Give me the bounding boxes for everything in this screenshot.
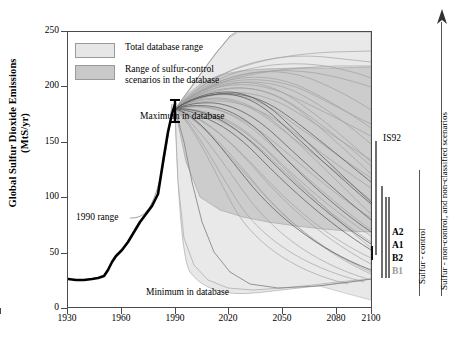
x-tick-1960 xyxy=(0,308,1,314)
range-1990-leader xyxy=(130,104,172,218)
x-tick-label-2100: 2100 xyxy=(349,313,393,323)
y-axis-title-line1: Global Sulfur Dioxide Emissions xyxy=(7,58,19,207)
annotation-1990-range: 1990 range xyxy=(76,212,118,222)
y-tick-label-0: 0 xyxy=(19,303,59,313)
y-tick-label-150: 150 xyxy=(19,137,59,147)
y-axis-title: Global Sulfur Dioxide Emissions (MtS/yr) xyxy=(2,28,36,238)
historical-emissions-line xyxy=(68,104,175,280)
legend-label-control-range-line1: Range of sulfur-control xyxy=(125,64,219,75)
marker-bar-a2 xyxy=(381,186,383,278)
x-tick-label-1990: 1990 xyxy=(153,313,197,323)
y-axis-title-line2: (MtS/yr) xyxy=(19,113,31,153)
marker-label-is92: IS92 xyxy=(383,133,401,143)
legend-label-control-range: Range of sulfur-control scenarios in the… xyxy=(125,64,219,85)
x-tick-label-2020: 2020 xyxy=(206,313,250,323)
y-tick-label-100: 100 xyxy=(19,192,59,202)
bracket-arrow-icon xyxy=(436,8,448,28)
marker-bar-b2 xyxy=(388,197,390,278)
annotation-maximum: Maximum in database xyxy=(140,111,224,121)
x-tick-label-1930: 1930 xyxy=(45,313,89,323)
legend-label-control-range-line2: scenarios in the database xyxy=(125,75,219,86)
y-tick-label-250: 250 xyxy=(19,26,59,36)
legend-swatch-control-range xyxy=(75,65,115,80)
bracket-label-sulfur-control: Sulfur - control xyxy=(417,229,427,285)
legend-item-total-range: Total database range xyxy=(75,42,290,58)
marker-label-a1: A1 xyxy=(392,240,404,250)
legend-item-control-range: Range of sulfur-control scenarios in the… xyxy=(75,64,290,85)
x-tick-label-2050: 2050 xyxy=(260,313,304,323)
legend-swatch-total-range xyxy=(75,43,115,58)
marker-bar-b1 xyxy=(371,246,373,260)
legend-label-total-range: Total database range xyxy=(125,42,203,53)
annotation-minimum: Minimum in database xyxy=(146,287,229,297)
marker-label-b1: B1 xyxy=(392,266,403,276)
marker-label-b2: B2 xyxy=(392,253,403,263)
y-tick-label-200: 200 xyxy=(19,81,59,91)
bracket-label-sulfur-noncontrol: Sulfur - non-control, and non-classified… xyxy=(439,112,449,290)
y-tick-label-50: 50 xyxy=(19,248,59,258)
marker-bar-a1 xyxy=(385,197,387,278)
marker-label-a2: A2 xyxy=(392,227,404,237)
marker-bar-is92 xyxy=(375,141,377,255)
figure-root: Global Sulfur Dioxide Emissions (MtS/yr)… xyxy=(0,0,456,337)
x-tick-label-1960: 1960 xyxy=(99,313,143,323)
legend: Total database range Range of sulfur-con… xyxy=(75,42,290,91)
